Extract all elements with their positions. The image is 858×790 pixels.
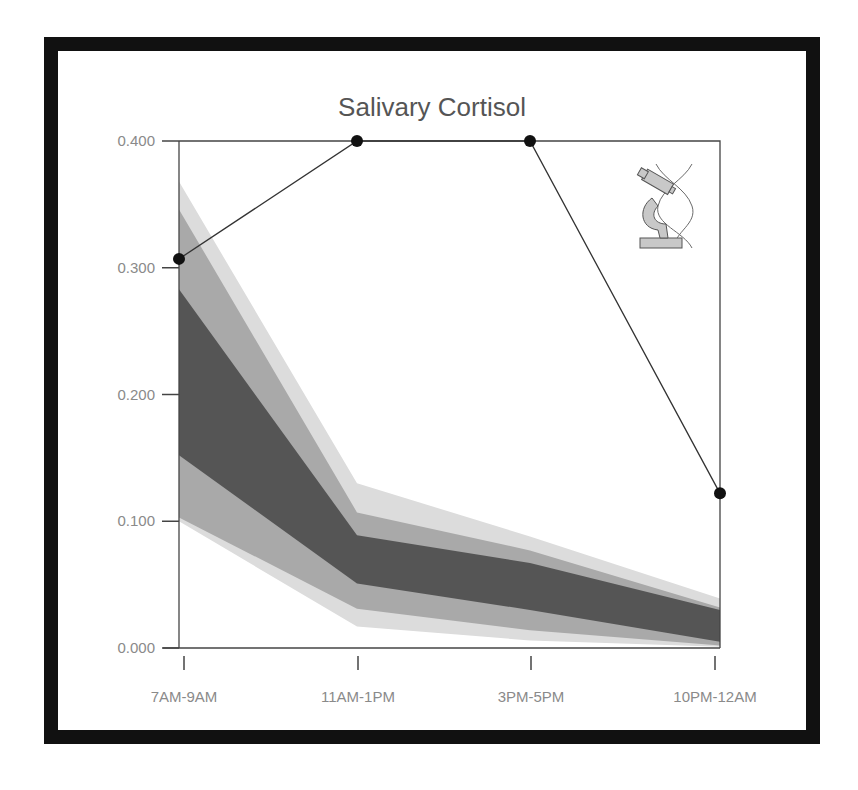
cortisol-chart: Salivary Cortisol 0.0000.1000.2000.3000.…	[0, 0, 858, 790]
y-ticks: 0.0000.1000.2000.3000.400	[117, 132, 179, 656]
x-ticks: 7AM-9AM11AM-1PM3PM-5PM10PM-12AM	[151, 656, 757, 705]
reference-bands	[179, 182, 720, 647]
data-point	[351, 135, 363, 147]
y-tick-label: 0.000	[117, 639, 155, 656]
y-tick-label: 0.300	[117, 259, 155, 276]
x-tick-label: 10PM-12AM	[673, 688, 756, 705]
x-tick-label: 3PM-5PM	[498, 688, 565, 705]
y-tick-label: 0.400	[117, 132, 155, 149]
x-tick-label: 11AM-1PM	[321, 688, 395, 705]
microscope-dna-icon	[636, 164, 693, 248]
x-tick-label: 7AM-9AM	[151, 688, 218, 705]
data-point	[524, 135, 536, 147]
y-tick-label: 0.200	[117, 386, 155, 403]
data-point	[714, 487, 726, 499]
chart-title: Salivary Cortisol	[338, 92, 526, 122]
y-tick-label: 0.100	[117, 512, 155, 529]
data-point	[173, 253, 185, 265]
